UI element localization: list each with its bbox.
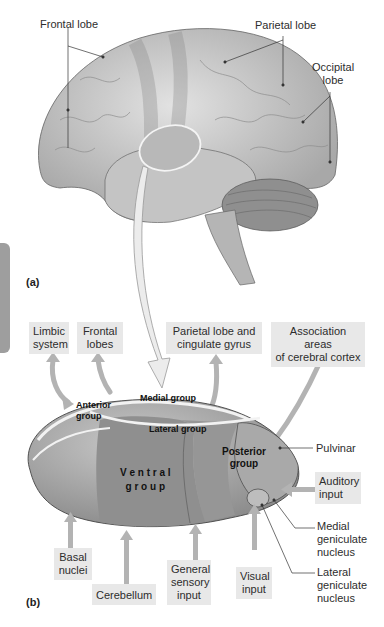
parietal-lobe-label: Parietal lobe — [255, 19, 316, 32]
assoc-line2: of cerebral cortex — [275, 351, 361, 364]
posterior-line1: Posterior — [222, 446, 266, 458]
auditory-input-box: Auditory input — [315, 472, 361, 504]
pulvinar-label: Pulvinar — [316, 442, 356, 455]
ventral-line1: V e n t r a l — [120, 466, 171, 480]
general-sensory-input-box: General sensory input — [167, 560, 211, 605]
lateral-gen-line1: Lateral — [317, 566, 367, 579]
occipital-lobe-label: Occipital lobe — [311, 61, 355, 87]
parietal-cingulate-box: Parietal lobe and cingulate gyrus — [166, 322, 262, 354]
lateral-geniculate-label: Lateral geniculate nucleus — [317, 566, 367, 605]
ventral-group-label: V e n t r a l g r o u p — [120, 466, 171, 494]
auditory-line1: Auditory — [319, 475, 357, 488]
panel-a-label: (a) — [26, 276, 39, 288]
anterior-line1: Anterior — [76, 400, 111, 411]
visual-line1: Visual — [240, 570, 268, 583]
medial-gen-line3: nucleus — [317, 546, 367, 559]
frontal-lobes-box: Frontal lobes — [77, 322, 123, 354]
general-line1: General — [171, 563, 207, 576]
limbic-line2: system — [33, 338, 65, 351]
posterior-line2: group — [222, 458, 266, 470]
lateral-group-label: Lateral group — [149, 424, 207, 435]
medial-geniculate-label: Medial geniculate nucleus — [317, 520, 367, 559]
basal-line1: Basal — [58, 551, 88, 564]
assoc-line1: Association areas — [275, 325, 361, 351]
occipital-label-line2: lobe — [311, 74, 355, 87]
general-line3: input — [171, 589, 207, 602]
posterior-group-label: Posterior group — [222, 446, 266, 470]
cerebellum-box: Cerebellum — [92, 584, 156, 605]
brain-illustration — [38, 29, 337, 285]
association-areas-box: Association areas of cerebral cortex — [271, 322, 365, 367]
frontal-line2: lobes — [81, 338, 119, 351]
basal-line2: nuclei — [58, 564, 88, 577]
auditory-line2: input — [319, 488, 357, 501]
frontal-lobe-label: Frontal lobe — [40, 18, 98, 31]
basal-nuclei-box: Basal nuclei — [54, 548, 92, 580]
medial-group-label: Medial group — [140, 393, 196, 404]
limbic-system-box: Limbic system — [29, 322, 69, 354]
limbic-line1: Limbic — [33, 325, 65, 338]
frontal-line1: Frontal — [81, 325, 119, 338]
parietal-line1: Parietal lobe and — [170, 325, 258, 338]
occipital-label-line1: Occipital — [311, 61, 355, 74]
lateral-gen-line2: geniculate — [317, 579, 367, 592]
visual-input-box: Visual input — [236, 567, 272, 599]
anterior-line2: group — [76, 411, 111, 422]
panel-b-label: (b) — [26, 596, 40, 608]
ventral-line2: g r o u p — [120, 480, 171, 494]
general-line2: sensory — [171, 576, 207, 589]
lateral-gen-line3: nucleus — [317, 592, 367, 605]
visual-line2: input — [240, 583, 268, 596]
medial-gen-line1: Medial — [317, 520, 367, 533]
anterior-group-label: Anterior group — [76, 400, 111, 422]
parietal-line2: cingulate gyrus — [170, 338, 258, 351]
medial-gen-line2: geniculate — [317, 533, 367, 546]
